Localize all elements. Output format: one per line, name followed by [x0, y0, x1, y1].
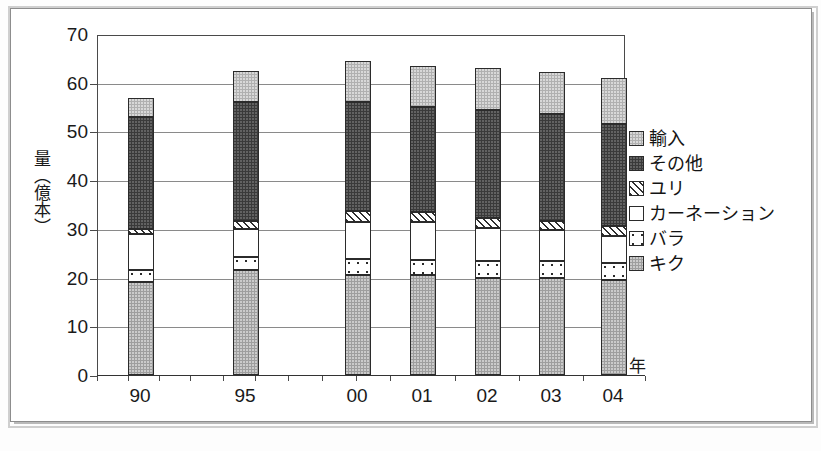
x-tick-6	[583, 376, 584, 381]
segment-carnation-04[interactable]	[601, 236, 627, 264]
segment-yuri-02[interactable]	[475, 218, 501, 228]
segment-sonota-03[interactable]	[539, 114, 565, 220]
segment-yunyu-90[interactable]	[128, 98, 154, 117]
segment-yuri-00[interactable]	[345, 211, 371, 221]
x-tick-label-90: 90	[120, 385, 160, 407]
x-tick-label-01: 01	[402, 385, 442, 407]
segment-bara-03[interactable]	[539, 261, 565, 278]
x-tick-label-02: 02	[467, 385, 507, 407]
segment-carnation-00[interactable]	[345, 222, 371, 260]
y-tick-0	[90, 376, 97, 377]
y-tick-50	[90, 132, 97, 133]
legend-item-5[interactable]: キク	[629, 251, 819, 276]
x-tick-13	[356, 376, 357, 381]
x-tick-11	[255, 376, 256, 381]
segment-bara-00[interactable]	[345, 259, 371, 275]
x-tick-label-04: 04	[593, 385, 633, 407]
plot-area	[97, 35, 625, 376]
bar-90[interactable]	[128, 34, 154, 375]
segment-kiku-90[interactable]	[128, 282, 154, 375]
segment-kiku-03[interactable]	[539, 278, 565, 375]
legend-item-1[interactable]: その他	[629, 151, 819, 176]
y-tick-60	[90, 84, 97, 85]
segment-yunyu-04[interactable]	[601, 78, 627, 124]
segment-yuri-95[interactable]	[233, 221, 259, 229]
x-tick-label-03: 03	[531, 385, 571, 407]
legend-item-0[interactable]: 輸入	[629, 126, 819, 151]
y-tick-label-0: 0	[46, 366, 88, 385]
segment-kiku-04[interactable]	[601, 280, 627, 375]
segment-yuri-01[interactable]	[410, 212, 436, 222]
segment-kiku-00[interactable]	[345, 275, 371, 375]
segment-yunyu-95[interactable]	[233, 71, 259, 103]
y-tick-label-20: 20	[46, 269, 88, 288]
segment-sonota-04[interactable]	[601, 124, 627, 226]
segment-bara-90[interactable]	[128, 270, 154, 283]
legend-label-2: ユリ	[649, 179, 685, 199]
y-tick-label-10: 10	[46, 317, 88, 336]
segment-sonota-01[interactable]	[410, 107, 436, 212]
segment-kiku-02[interactable]	[475, 278, 501, 375]
bar-04[interactable]	[601, 34, 627, 375]
segment-sonota-00[interactable]	[345, 102, 371, 211]
legend-label-1: その他	[649, 154, 703, 174]
segment-yuri-04[interactable]	[601, 226, 627, 236]
segment-yunyu-00[interactable]	[345, 61, 371, 102]
segment-kiku-01[interactable]	[410, 275, 436, 375]
segment-carnation-02[interactable]	[475, 228, 501, 261]
segment-sonota-95[interactable]	[233, 102, 259, 221]
bar-01[interactable]	[410, 34, 436, 375]
legend: 輸入その他ユリカーネーションバラキク	[629, 126, 819, 276]
legend-item-4[interactable]: バラ	[629, 226, 819, 251]
x-tick-3	[390, 376, 391, 381]
x-tick-2	[288, 376, 289, 381]
x-tick-10	[223, 376, 224, 381]
chart-page: 量（億本） 010203040506070 90950001020304 年 輸…	[0, 0, 821, 451]
segment-yuri-03[interactable]	[539, 221, 565, 231]
legend-swatch-0	[629, 131, 644, 146]
x-tick-0	[97, 376, 98, 381]
x-tick-12	[322, 376, 323, 381]
legend-label-5: キク	[649, 254, 685, 274]
bar-02[interactable]	[475, 34, 501, 375]
segment-carnation-95[interactable]	[233, 229, 259, 257]
segment-yunyu-02[interactable]	[475, 68, 501, 109]
bar-95[interactable]	[233, 34, 259, 375]
legend-label-0: 輸入	[649, 129, 685, 149]
y-tick-label-50: 50	[46, 122, 88, 141]
segment-bara-02[interactable]	[475, 261, 501, 278]
segment-yunyu-01[interactable]	[410, 66, 436, 107]
legend-swatch-4	[629, 231, 644, 246]
y-tick-label-40: 40	[46, 171, 88, 190]
x-tick-label-95: 95	[225, 385, 265, 407]
y-tick-20	[90, 279, 97, 280]
legend-item-2[interactable]: ユリ	[629, 176, 819, 201]
segment-yuri-90[interactable]	[128, 229, 154, 234]
segment-carnation-90[interactable]	[128, 234, 154, 270]
segment-kiku-95[interactable]	[233, 270, 259, 375]
legend-label-3: カーネーション	[649, 204, 775, 224]
x-tick-1	[190, 376, 191, 381]
legend-swatch-3	[629, 206, 644, 221]
x-tick-7	[645, 376, 646, 381]
segment-sonota-02[interactable]	[475, 110, 501, 219]
segment-carnation-01[interactable]	[410, 222, 436, 260]
x-tick-9	[159, 376, 160, 381]
x-tick-label-00: 00	[337, 385, 377, 407]
segment-bara-04[interactable]	[601, 263, 627, 280]
y-tick-label-30: 30	[46, 220, 88, 239]
x-axis-line	[97, 375, 645, 376]
segment-bara-01[interactable]	[410, 260, 436, 276]
legend-label-4: バラ	[649, 229, 685, 249]
y-axis-tick-labels: 010203040506070	[36, 0, 88, 451]
segment-bara-95[interactable]	[233, 257, 259, 271]
legend-item-3[interactable]: カーネーション	[629, 201, 819, 226]
segment-sonota-90[interactable]	[128, 117, 154, 229]
segment-yunyu-03[interactable]	[539, 72, 565, 114]
segment-carnation-03[interactable]	[539, 230, 565, 261]
bar-00[interactable]	[345, 34, 371, 375]
y-tick-label-70: 70	[46, 25, 88, 44]
bar-03[interactable]	[539, 34, 565, 375]
x-tick-8	[128, 376, 129, 381]
x-axis-title: 年	[629, 358, 646, 376]
